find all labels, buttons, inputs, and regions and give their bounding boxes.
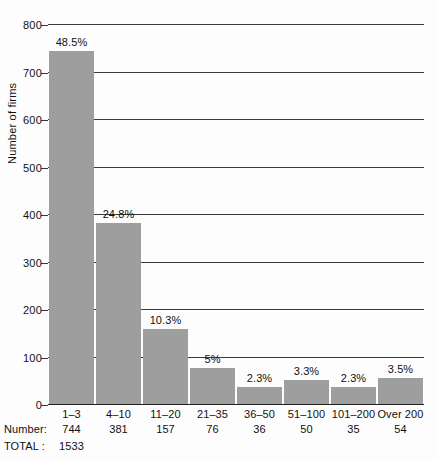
y-tick-label: 100 — [23, 352, 42, 364]
y-tick-mark — [41, 358, 48, 359]
x-axis-label: Over 200 — [377, 408, 424, 420]
bar: 5% — [190, 368, 235, 404]
bar-value-label: 3.3% — [294, 365, 319, 377]
footer-row-label-number: Number: — [4, 423, 47, 435]
x-axis-label: 51–100 — [283, 408, 330, 420]
bar: 48.5% — [49, 51, 94, 404]
footer-cell: 36 — [236, 423, 283, 435]
footer-row-label-total: TOTAL : — [4, 440, 45, 452]
x-axis-label: 21–35 — [189, 408, 236, 420]
x-axis-label: 36–50 — [236, 408, 283, 420]
y-tick-mark — [41, 215, 48, 216]
bar: 2.3% — [237, 387, 282, 404]
footer-row-total: TOTAL : 1533 — [0, 440, 438, 457]
bar-value-label: 10.3% — [150, 314, 182, 326]
bar-value-label: 2.3% — [247, 372, 272, 384]
gridline: 0 — [48, 404, 424, 405]
x-axis-label: 1–3 — [48, 408, 95, 420]
footer-cell: 157 — [142, 423, 189, 435]
y-tick-label: 0 — [36, 399, 42, 411]
footer-cell: 50 — [283, 423, 330, 435]
gridline: 800 — [48, 24, 424, 25]
y-tick-label: 200 — [23, 304, 42, 316]
bar-value-label: 2.3% — [341, 372, 366, 384]
bar-chart: Number of firms 010020030040050060070080… — [0, 0, 438, 461]
footer-cell: 381 — [95, 423, 142, 435]
bar-value-label: 5% — [204, 353, 220, 365]
bar-value-label: 3.5% — [388, 363, 413, 375]
y-tick-label: 400 — [23, 209, 42, 221]
y-tick-label: 300 — [23, 257, 42, 269]
y-tick-label: 500 — [23, 162, 42, 174]
footer-cell: 54 — [377, 423, 424, 435]
y-tick-mark — [41, 310, 48, 311]
y-tick-mark — [41, 168, 48, 169]
footer-cell: 35 — [330, 423, 377, 435]
y-tick-mark — [41, 405, 48, 406]
footer-cell: 1533 — [48, 440, 95, 452]
x-axis-label: 11–20 — [142, 408, 189, 420]
footer-row-number: Number: 7443811577636503554 — [0, 423, 438, 440]
x-axis-label: 101–200 — [330, 408, 377, 420]
y-axis-title: Number of firms — [6, 150, 18, 164]
x-axis-label: 4–10 — [95, 408, 142, 420]
bar: 3.3% — [284, 380, 329, 404]
bar-value-label: 48.5% — [56, 36, 88, 48]
footer-cell: 744 — [48, 423, 95, 435]
bar: 3.5% — [378, 378, 423, 404]
y-tick-label: 800 — [23, 19, 42, 31]
y-tick-mark — [41, 120, 48, 121]
bar: 10.3% — [143, 329, 188, 404]
plot-area: 0100200300400500600700800 48.5%24.8%10.3… — [48, 24, 424, 404]
gridline: 700 — [48, 72, 424, 73]
footer-table: Number: 7443811577636503554 TOTAL : 1533 — [0, 423, 438, 457]
y-tick-label: 600 — [23, 114, 42, 126]
bar-value-label: 24.8% — [103, 208, 135, 220]
y-tick-mark — [41, 73, 48, 74]
gridline: 500 — [48, 167, 424, 168]
y-tick-mark — [41, 25, 48, 26]
y-tick-label: 700 — [23, 67, 42, 79]
bar: 24.8% — [96, 223, 141, 404]
y-tick-mark — [41, 263, 48, 264]
bar: 2.3% — [331, 387, 376, 404]
gridline: 600 — [48, 119, 424, 120]
footer-cell: 76 — [189, 423, 236, 435]
